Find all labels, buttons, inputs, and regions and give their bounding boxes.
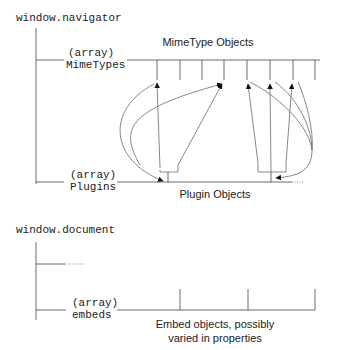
plugins-label-name: Plugins (70, 181, 116, 193)
navigator-section: window.navigator (array) MimeTypes MimeT… (16, 12, 320, 200)
embeds-label-type: (array) (72, 297, 118, 309)
arrow-icon (286, 84, 292, 163)
diagram-canvas: window.navigator (array) MimeTypes MimeT… (0, 0, 337, 350)
mimetypes-caption: MimeType Objects (162, 36, 254, 48)
plugin-object-2 (258, 163, 286, 182)
arrow-icon (120, 84, 163, 181)
arrow-icon (157, 83, 160, 168)
arrow-icon (276, 150, 312, 178)
plugins-label-type: (array) (70, 169, 116, 181)
plugin-object-1 (160, 165, 178, 182)
arrow-icon (270, 84, 271, 172)
plugin1-to-mimetype-arrows (120, 83, 222, 181)
plugins-caption: Plugin Objects (180, 188, 251, 200)
navigator-title: window.navigator (16, 12, 122, 24)
embeds-caption-line2: varied in properties (168, 332, 262, 344)
document-section: window.document (array) embeds Embed obj… (16, 224, 315, 344)
arrow-icon (248, 84, 258, 163)
mimetype-ticks (157, 60, 315, 80)
document-title: window.document (16, 224, 115, 236)
mimetypes-label-type: (array) (68, 47, 114, 59)
embeds-caption-line1: Embed objects, possibly (156, 318, 275, 330)
embed-ticks (180, 289, 315, 310)
mimetypes-label-name: MimeTypes (66, 59, 125, 71)
embeds-label-name: embeds (72, 309, 112, 321)
arrow-icon (178, 84, 222, 165)
arrow-icon (131, 84, 222, 165)
